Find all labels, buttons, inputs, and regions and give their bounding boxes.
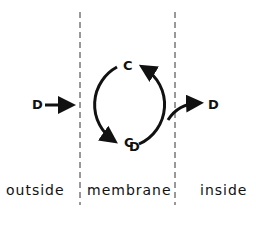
region-membrane-label: membrane <box>87 182 172 198</box>
complex-d-label: D <box>129 139 140 154</box>
d-outside-label: D <box>32 97 43 112</box>
cycle-arc-right <box>139 68 165 144</box>
d-inside-label: D <box>208 97 219 112</box>
carrier-label: C <box>123 58 133 73</box>
cycle-arc-left <box>95 67 117 140</box>
release-arrow <box>168 103 198 120</box>
region-inside-label: inside <box>200 182 247 198</box>
region-outside-label: outside <box>6 182 65 198</box>
